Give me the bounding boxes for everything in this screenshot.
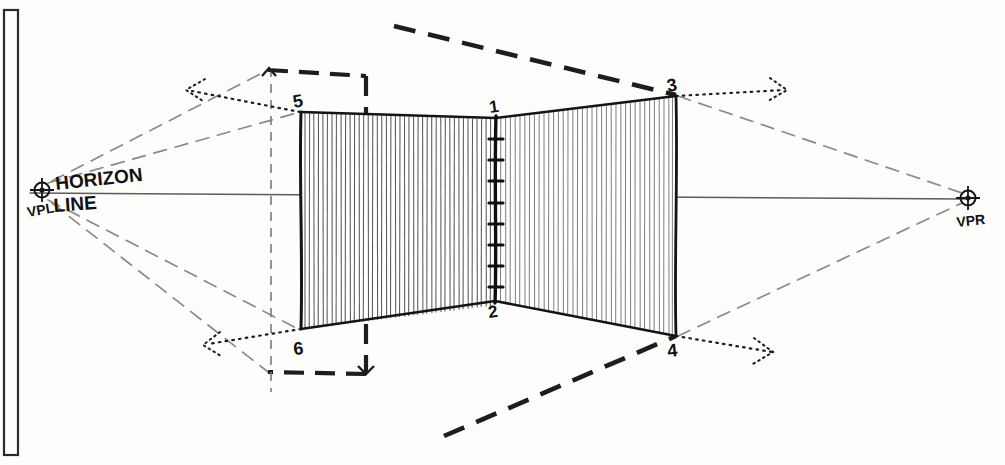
vpr-label: VPR [956,211,986,230]
right-wall [495,96,677,336]
horizon-label-line2: LINE [53,192,98,216]
left-wall [300,112,496,329]
perspective-drawing: HORIZON LINE VPL VPR 1 2 3 4 5 6 [0,0,1005,465]
sketch-canvas: HORIZON LINE VPL VPR 1 2 3 4 5 6 [0,0,1005,465]
point-label-4: 4 [666,340,678,361]
point-label-6: 6 [292,338,304,359]
